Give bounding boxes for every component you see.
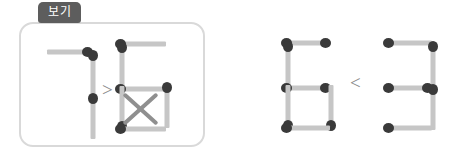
- match-head-icon: [320, 38, 331, 48]
- match-seven-top-bar[interactable]: [47, 46, 92, 57]
- match-three-upper-right-vertical[interactable]: [427, 42, 438, 87]
- example-box: >: [19, 22, 205, 147]
- operator-less-than: <: [350, 73, 361, 92]
- match-head-icon: [283, 41, 293, 52]
- match-head-icon: [281, 123, 292, 133]
- match-six-bottom-bar[interactable]: [282, 122, 330, 133]
- match-head-icon: [383, 38, 394, 48]
- match-head-icon: [162, 82, 172, 93]
- operator-greater-than: >: [102, 80, 113, 99]
- example-label-tab: 보기: [38, 2, 81, 23]
- match-five-upper-left-vertical[interactable]: [116, 43, 127, 88]
- match-head-icon: [88, 50, 98, 61]
- match-six-upper-left-vertical[interactable]: [282, 42, 293, 87]
- match-three-top-bar[interactable]: [384, 37, 432, 48]
- match-seven-upper-vertical[interactable]: [87, 51, 98, 96]
- match-seven-lower-vertical[interactable]: [87, 94, 98, 139]
- match-head-icon: [428, 41, 438, 52]
- match-head-icon: [428, 84, 438, 95]
- match-three-middle-bar-end: [384, 82, 432, 93]
- cross-out-x-icon: [118, 86, 163, 131]
- match-head-icon: [117, 42, 127, 53]
- match-head-icon: [88, 93, 98, 104]
- match-three-bottom-bar[interactable]: [384, 122, 432, 133]
- worksheet-canvas: 보기 >: [0, 0, 462, 158]
- match-head-icon: [383, 123, 394, 133]
